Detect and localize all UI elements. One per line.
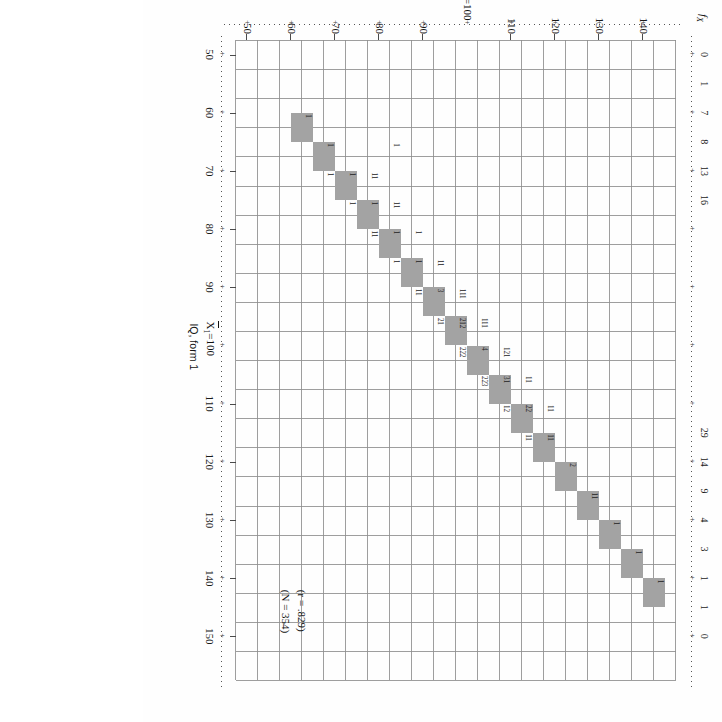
cell-tally: 1 xyxy=(656,580,663,606)
axis-plus-mark: + xyxy=(218,284,226,289)
y-axis-tick-label: 80 xyxy=(374,0,386,34)
marginal-frequency-value: 16 xyxy=(699,185,710,215)
grid-line-horizontal xyxy=(521,40,522,680)
axis-plus-mark: + xyxy=(463,20,471,25)
cell-tally: 11 xyxy=(546,434,553,460)
x-axis-tick xyxy=(230,636,236,637)
marginal-frequency-value: 1 xyxy=(699,563,710,593)
grid-line-horizontal xyxy=(411,40,412,680)
x-axis-tick xyxy=(230,229,236,230)
axis-dotted-rail-top xyxy=(691,34,692,688)
cell-tally: 11 xyxy=(414,289,421,315)
cell-tally: 11 xyxy=(370,172,377,198)
axis-plus-mark: + xyxy=(688,401,696,406)
y-axis-tick xyxy=(378,34,379,40)
y-axis-tick xyxy=(422,34,423,40)
cell-tally: 1 xyxy=(612,522,619,548)
grid-line-vertical xyxy=(236,215,676,216)
cell-tally: 1 xyxy=(348,172,355,198)
marginal-frequency-value: 9 xyxy=(699,476,710,506)
grid-line-vertical xyxy=(236,40,676,41)
correlation-annotation: (r = .829) xyxy=(296,590,308,632)
cell-tally: 22 xyxy=(524,405,531,431)
grid-line-horizontal xyxy=(323,40,324,680)
cell-tally: 222 xyxy=(458,347,465,373)
y-axis-tick xyxy=(246,34,247,40)
cell-tally: 11 xyxy=(436,260,443,286)
grid-line-horizontal xyxy=(631,40,632,680)
x-axis-mean-label: X1=100 xyxy=(202,321,217,355)
y-axis-tick xyxy=(510,34,511,40)
cell-tally: 4 xyxy=(480,347,487,373)
x-axis-tick-label: 150 xyxy=(204,616,216,656)
x-axis-tick-label: 50 xyxy=(204,35,216,75)
y-mean-value: 100 xyxy=(462,4,474,21)
cell-tally: 11 xyxy=(524,434,531,460)
x-axis-tick xyxy=(230,404,236,405)
grid-line-horizontal xyxy=(499,40,500,680)
cell-tally: 11 xyxy=(524,376,531,402)
axis-plus-mark: + xyxy=(218,401,226,406)
sample-size-annotation: (N = 354) xyxy=(280,590,292,633)
cell-tally: 11 xyxy=(546,405,553,431)
axis-plus-mark: + xyxy=(688,633,696,638)
axis-plus-mark: + xyxy=(218,633,226,638)
x-axis-tick xyxy=(230,287,236,288)
cell-tally: 1 xyxy=(392,260,399,286)
marginal-frequency-value: 13 xyxy=(699,156,710,186)
grid-line-vertical xyxy=(236,418,676,419)
axis-plus-mark: + xyxy=(688,575,696,580)
x-mean-subscript: 1 xyxy=(202,329,211,333)
grid-line-horizontal xyxy=(367,40,368,680)
y-axis-tick xyxy=(598,34,599,40)
grid-line-vertical xyxy=(236,564,676,565)
axis-plus-mark: + xyxy=(688,168,696,173)
y-axis-tick-label: 130 xyxy=(594,0,606,34)
axis-plus-mark: + xyxy=(688,110,696,115)
x-mean-value: 100 xyxy=(205,339,217,356)
marginal-frequency-value: 3 xyxy=(699,534,710,564)
x-axis-tick-label: 130 xyxy=(204,500,216,540)
cell-tally: 1 xyxy=(370,202,377,228)
grid-line-vertical xyxy=(236,244,676,245)
x-axis-tick xyxy=(230,520,236,521)
axis-plus-mark: + xyxy=(218,342,226,347)
grid-line-horizontal xyxy=(455,40,456,680)
marginal-frequency-label: fX xyxy=(695,14,710,22)
grid-line-vertical xyxy=(236,186,676,187)
cell-tally: 111 xyxy=(458,289,465,315)
y-axis-tick xyxy=(290,34,291,40)
x-axis-tick-label: 120 xyxy=(204,442,216,482)
cell-tally: 1 xyxy=(634,551,641,577)
cell-tally: 1 xyxy=(414,260,421,286)
y-axis-title: IQ, form 2 xyxy=(445,0,457,1)
cell-tally: 3 xyxy=(436,289,443,315)
x-axis-title: IQ, form 1 xyxy=(188,323,200,370)
marginal-frequency-value: 7 xyxy=(699,98,710,128)
y-axis-tick-label: 70 xyxy=(330,0,342,34)
grid-line-vertical xyxy=(236,98,676,99)
marginal-frequency-value: 0 xyxy=(699,40,710,70)
grid-line-vertical xyxy=(236,69,676,70)
y-axis-tick-label: 50 xyxy=(242,0,254,34)
cell-tally: 12 xyxy=(502,405,509,431)
axis-plus-mark: + xyxy=(218,575,226,580)
marginal-frequency-value: 1 xyxy=(699,592,710,622)
x-axis-tick xyxy=(230,171,236,172)
fx-sub: X xyxy=(695,17,704,22)
axis-plus-mark: + xyxy=(688,517,696,522)
marginal-frequency-value: 29 xyxy=(699,418,710,448)
grid-line-horizontal xyxy=(587,40,588,680)
cell-tally: 212 xyxy=(458,318,465,344)
plot-area: 1111111111111111111113111212121112224121… xyxy=(236,40,676,680)
cell-tally: 1 xyxy=(414,231,421,257)
marginal-frequency-value: 0 xyxy=(699,621,710,651)
grid-line-horizontal xyxy=(609,40,610,680)
cell-tally: 1 xyxy=(392,143,399,169)
axis-plus-mark: + xyxy=(218,168,226,173)
x-axis-tick-label: 140 xyxy=(204,558,216,598)
x-axis-tick-label: 90 xyxy=(204,267,216,307)
cell-tally: 21 xyxy=(436,318,443,344)
cell-tally: 2 xyxy=(568,463,575,489)
cell-tally: 1 xyxy=(392,231,399,257)
